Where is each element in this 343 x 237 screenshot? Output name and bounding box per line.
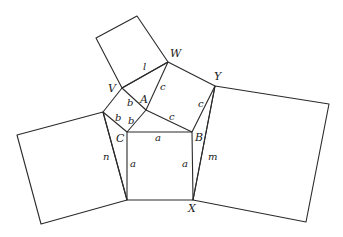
segment-label-c: c <box>198 98 204 109</box>
segment-label-b: b <box>115 112 121 123</box>
segment-label-a: a <box>130 158 136 169</box>
left-square <box>17 112 127 224</box>
segment-label-b: b <box>128 115 134 126</box>
segment-w-y <box>168 62 215 86</box>
segment-label-c: c <box>169 111 175 122</box>
segment-label-m: m <box>208 151 217 162</box>
segment-y-b <box>192 86 215 132</box>
segment-label-l: l <box>143 61 146 72</box>
geometry-diagram: WVACBYXlcbbbccanaam <box>0 0 343 237</box>
segment-label-a: a <box>182 158 188 169</box>
vertex-label-y: Y <box>214 70 223 83</box>
vertex-label-v: V <box>108 82 117 95</box>
top-square <box>96 16 168 88</box>
segment-label-b: b <box>127 97 133 108</box>
vertex-label-x: X <box>187 202 197 215</box>
vertex-label-a: A <box>139 93 148 106</box>
segment-label-n: n <box>103 151 109 162</box>
segment-label-a: a <box>155 132 161 143</box>
segment-label-c: c <box>160 81 166 92</box>
vertex-label-c: C <box>116 132 125 145</box>
vertex-label-w: W <box>170 47 183 60</box>
vertex-label-b: B <box>194 131 203 144</box>
